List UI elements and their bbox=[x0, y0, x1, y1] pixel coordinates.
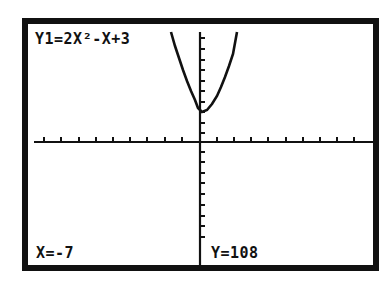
trace-y-value: Y=108 bbox=[208, 245, 259, 261]
trace-x-value: X=-7 bbox=[36, 245, 74, 261]
function-curve-y1 bbox=[171, 32, 237, 112]
function-equation-label: Y1=2X²-X+3 bbox=[35, 31, 130, 47]
graph-canvas bbox=[28, 24, 373, 265]
graph-screen: Y1=2X²-X+3 X=-7 Y=108 bbox=[22, 18, 379, 271]
